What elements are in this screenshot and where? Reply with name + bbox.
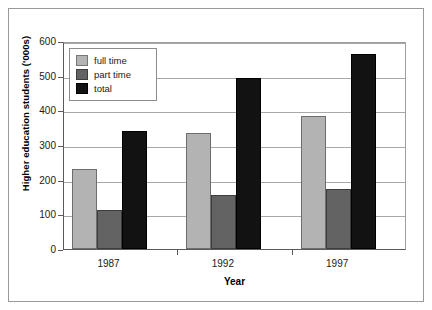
bar [301,116,326,249]
y-axis-tick-label: 600 [20,37,56,47]
legend-item: full time [76,54,150,67]
legend-swatch-icon [76,69,88,80]
x-axis-category-label: 1992 [183,258,263,269]
legend-swatch-icon [76,83,88,94]
gridline [64,43,405,44]
x-axis-category-label: 1997 [297,258,377,269]
legend-swatch-icon [76,55,88,66]
y-axis-tick [58,250,63,251]
bar-chart-figure: Higher education students ('000s) 600500… [0,0,432,310]
bar [122,131,147,249]
x-axis-title: Year [63,276,406,287]
x-axis-tick [292,250,293,255]
bar [236,78,261,249]
y-axis-tick-label: 200 [20,176,56,186]
y-axis-tick-label: 100 [20,210,56,220]
y-axis-tick-label: 400 [20,106,56,116]
bar [186,133,211,249]
bar [72,169,97,249]
bar [211,195,236,249]
x-axis-tick [177,250,178,255]
y-axis-tick-label: 300 [20,141,56,151]
bar [326,189,351,249]
bar [351,54,376,249]
legend-item-label: part time [94,69,131,80]
legend-item-label: total [94,83,112,94]
y-axis-tick-label: 500 [20,72,56,82]
chart-legend: full timepart timetotal [69,48,157,101]
legend-item: part time [76,68,150,81]
legend-item-label: full time [94,55,127,66]
x-axis-category-label: 1987 [69,258,149,269]
bar [97,210,122,249]
y-axis-tick-label: 0 [20,245,56,255]
legend-item: total [76,82,150,95]
y-axis-tick-labels: 6005004003002001000 [16,0,56,310]
